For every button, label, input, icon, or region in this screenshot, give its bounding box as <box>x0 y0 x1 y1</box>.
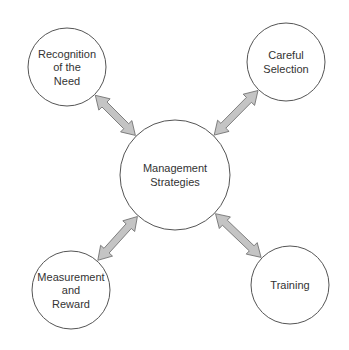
node-label-selection: Selection <box>263 63 308 75</box>
node-label-training: Training <box>270 279 309 291</box>
node-label-measurement: Measurement <box>37 271 104 283</box>
node-label-recognition: of the <box>53 61 81 73</box>
double-arrow-selection-management <box>214 91 258 136</box>
double-arrow-training-management <box>216 214 262 258</box>
node-management: ManagementStrategies <box>120 120 230 230</box>
node-label-recognition: Need <box>54 75 80 87</box>
double-arrow-measurement-management <box>98 217 138 261</box>
node-label-recognition: Recognition <box>38 48 96 60</box>
node-recognition: Recognitionof theNeed <box>28 28 106 106</box>
node-label-selection: Careful <box>268 49 303 61</box>
node-label-measurement: and <box>62 284 80 296</box>
node-selection: CarefulSelection <box>247 23 325 101</box>
diagram-canvas: ManagementStrategiesRecognitionof theNee… <box>0 0 349 350</box>
nodes-layer: ManagementStrategiesRecognitionof theNee… <box>28 23 329 329</box>
node-label-measurement: Reward <box>52 298 90 310</box>
node-training: Training <box>251 246 329 324</box>
node-label-management: Management <box>143 162 207 174</box>
node-label-management: Strategies <box>150 176 200 188</box>
double-arrow-recognition-management <box>95 95 135 135</box>
node-measurement: MeasurementandReward <box>32 251 110 329</box>
